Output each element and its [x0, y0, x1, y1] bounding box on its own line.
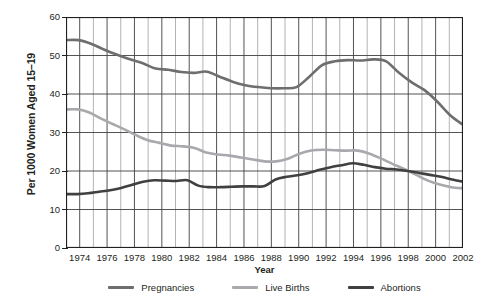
series-line-live-births: [66, 109, 463, 188]
y-tick-label: 10: [38, 205, 60, 215]
legend-item-live-births: Live Births: [232, 282, 309, 293]
y-tick-label: 0: [38, 243, 60, 253]
y-tick-label: 30: [38, 128, 60, 138]
x-axis-title: Year: [66, 264, 463, 275]
x-tick-label: 2002: [443, 252, 483, 263]
y-tick-label: 20: [38, 166, 60, 176]
legend-swatch: [232, 286, 258, 289]
y-axis-tick-labels: 0102030405060: [38, 0, 60, 300]
legend-swatch: [108, 286, 134, 289]
y-tick-label: 50: [38, 51, 60, 61]
chart-legend: PregnanciesLive BirthsAbortions: [66, 279, 463, 295]
legend-item-abortions: Abortions: [348, 282, 421, 293]
series-line-pregnancies: [66, 40, 463, 125]
legend-swatch: [348, 286, 374, 289]
legend-item-pregnancies: Pregnancies: [108, 282, 194, 293]
plot-area: [66, 17, 463, 248]
legend-label: Abortions: [381, 282, 421, 293]
plot-svg: [66, 17, 463, 248]
legend-label: Live Births: [265, 282, 309, 293]
y-tick-label: 40: [38, 89, 60, 99]
legend-label: Pregnancies: [141, 282, 194, 293]
teen-pregnancy-line-chart: Per 1000 Women Aged 15–19 0102030405060 …: [0, 0, 498, 300]
y-tick-label: 60: [38, 12, 60, 22]
